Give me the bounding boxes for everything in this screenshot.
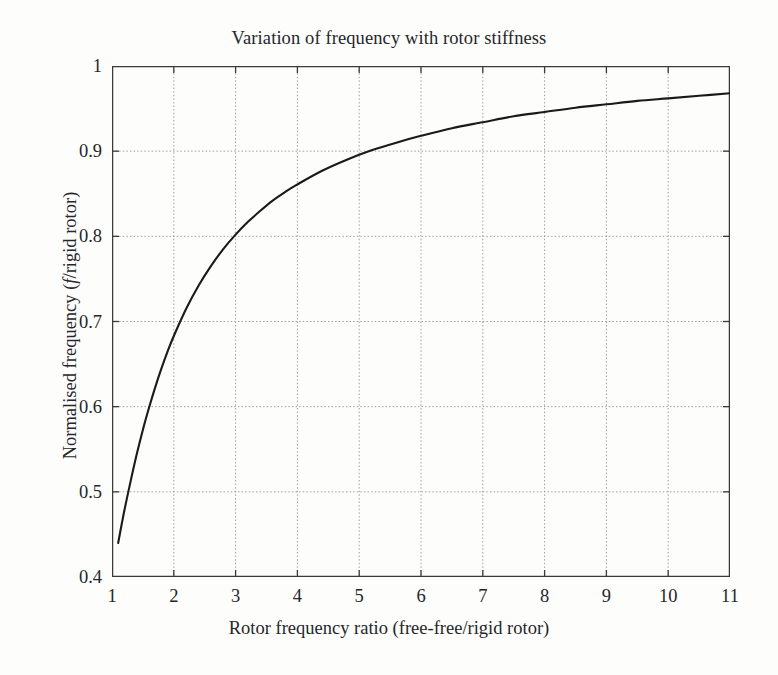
plot-area — [112, 66, 730, 577]
figure-container: Variation of frequency with rotor stiffn… — [0, 0, 778, 675]
plot-frame-border — [113, 67, 730, 577]
vertical-gridlines — [174, 66, 668, 577]
x-tick-label: 4 — [293, 586, 302, 607]
x-tick-label: 3 — [231, 586, 240, 607]
y-axis-label-suffix: /rigid rotor) — [60, 192, 80, 279]
x-tick-label: 5 — [355, 586, 364, 607]
x-tick-label: 7 — [478, 586, 487, 607]
x-tick-label: 2 — [169, 586, 178, 607]
y-axis-label: Normalised frequency (f/rigid rotor) — [60, 66, 81, 586]
data-series-line — [118, 93, 730, 543]
x-tick-label: 10 — [659, 586, 678, 607]
x-tick-label: 9 — [602, 586, 611, 607]
x-tick-label: 11 — [721, 586, 739, 607]
y-axis-label-symbol: f — [60, 279, 80, 284]
y-axis-label-prefix: Normalised frequency ( — [60, 284, 80, 460]
x-tick-label: 8 — [540, 586, 549, 607]
x-tick-label: 6 — [416, 586, 425, 607]
x-tick-label: 1 — [107, 586, 116, 607]
chart-title: Variation of frequency with rotor stiffn… — [0, 28, 778, 49]
plot-svg — [112, 66, 730, 577]
x-axis-label: Rotor frequency ratio (free-free/rigid r… — [0, 618, 778, 639]
